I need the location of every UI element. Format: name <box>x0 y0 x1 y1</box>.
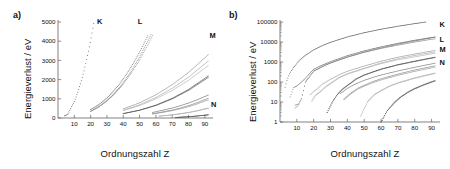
svg-text:10000: 10000 <box>260 38 278 45</box>
svg-text:50: 50 <box>361 124 368 131</box>
panel-a: a) Energieverlust / eV Ordnungszahl Z 01… <box>0 0 225 169</box>
svg-text:40: 40 <box>120 120 127 127</box>
svg-text:40: 40 <box>344 124 351 131</box>
svg-text:L: L <box>440 35 445 44</box>
svg-text:30: 30 <box>327 124 334 131</box>
svg-text:30: 30 <box>104 120 111 127</box>
svg-text:M: M <box>210 31 216 40</box>
svg-text:2000: 2000 <box>42 76 56 83</box>
panel-b: b) Energieverlust / eV Ordnungszahl Z 11… <box>225 0 450 169</box>
svg-text:K: K <box>440 20 446 29</box>
svg-text:20: 20 <box>310 124 317 131</box>
svg-text:K: K <box>97 17 103 26</box>
svg-text:3000: 3000 <box>42 57 56 64</box>
panel-a-plot: 010002000300040005000102030405060708090K… <box>0 0 225 169</box>
svg-text:90: 90 <box>428 124 435 131</box>
svg-text:100: 100 <box>267 78 278 85</box>
svg-text:70: 70 <box>169 120 176 127</box>
svg-text:M: M <box>440 45 446 54</box>
svg-text:90: 90 <box>201 120 208 127</box>
svg-text:60: 60 <box>152 120 159 127</box>
svg-text:1: 1 <box>274 118 278 125</box>
svg-text:80: 80 <box>185 120 192 127</box>
svg-text:5000: 5000 <box>42 18 56 25</box>
svg-text:10: 10 <box>293 124 300 131</box>
svg-text:100000: 100000 <box>257 18 278 25</box>
svg-text:L: L <box>138 17 143 26</box>
svg-text:80: 80 <box>411 124 418 131</box>
figure-container: a) Energieverlust / eV Ordnungszahl Z 01… <box>0 0 450 169</box>
svg-text:50: 50 <box>136 120 143 127</box>
svg-text:10: 10 <box>271 98 278 105</box>
svg-text:N: N <box>440 58 445 67</box>
svg-text:N: N <box>211 100 216 109</box>
svg-text:4000: 4000 <box>42 37 56 44</box>
svg-text:1000: 1000 <box>264 58 278 65</box>
svg-text:60: 60 <box>378 124 385 131</box>
svg-text:20: 20 <box>87 120 94 127</box>
svg-text:70: 70 <box>394 124 401 131</box>
svg-text:10: 10 <box>71 120 78 127</box>
panel-b-plot: 110100100010000100000102030405060708090K… <box>225 0 450 169</box>
svg-text:0: 0 <box>52 114 56 121</box>
svg-text:1000: 1000 <box>42 95 56 102</box>
